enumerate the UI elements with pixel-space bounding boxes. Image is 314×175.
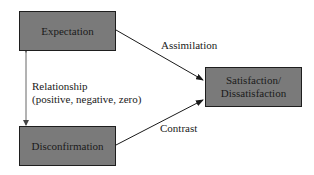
disconfirmation-label: Disconfirmation xyxy=(31,140,103,153)
relationship-sublabel: (positive, negative, zero) xyxy=(32,93,141,106)
assimilation-label: Assimilation xyxy=(161,39,217,52)
expectation-box: Expectation xyxy=(19,11,116,51)
disconfirmation-box: Disconfirmation xyxy=(19,126,116,166)
assimilation-arrow xyxy=(116,30,203,80)
expectation-label: Expectation xyxy=(41,25,94,38)
relationship-label: Relationship xyxy=(32,80,88,93)
contrast-label: Contrast xyxy=(160,122,197,135)
satisfaction-box: Satisfaction/ Dissatisfaction xyxy=(205,67,302,107)
satisfaction-label: Satisfaction/ Dissatisfaction xyxy=(221,74,286,100)
satisfaction-label-line2: Dissatisfaction xyxy=(221,87,286,100)
satisfaction-label-line1: Satisfaction/ xyxy=(221,74,286,87)
